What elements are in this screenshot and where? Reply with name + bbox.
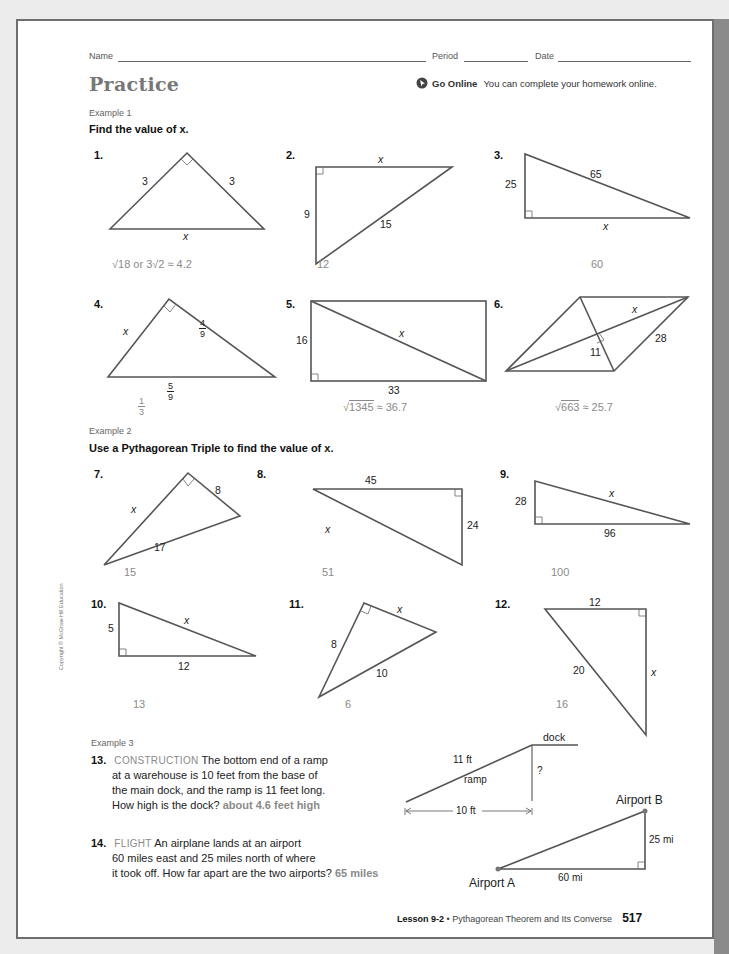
lesson-title: Pythagorean Theorem and Its Converse [452,914,612,924]
horizontal-distance-label: 60 mi [558,872,582,883]
problem-14-figure [0,0,729,954]
page-number: 517 [622,911,642,925]
vertical-distance-label: 25 mi [649,834,673,845]
lesson-number: Lesson 9-2 [397,914,444,924]
airport-a-label: Airport A [469,876,515,890]
page-footer: Lesson 9-2 • Pythagorean Theorem and Its… [397,911,642,925]
airport-b-label: Airport B [616,793,663,807]
